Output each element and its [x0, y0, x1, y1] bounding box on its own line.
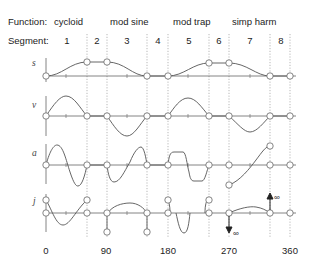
x-tick-0: 0: [43, 246, 48, 256]
axis-ticks: [66, 74, 250, 215]
axes: [46, 58, 296, 232]
infinity-down-label: ∞: [233, 229, 239, 239]
cam-motion-diagram: [0, 0, 314, 269]
arrow-down-icon: [226, 227, 232, 233]
arrow-up-icon: [267, 193, 273, 199]
infinity-up-label: ∞: [274, 193, 280, 203]
x-tick-90: 90: [101, 246, 112, 256]
a-curve: [46, 145, 270, 186]
x-tick-270: 270: [221, 246, 237, 256]
x-tick-360: 360: [282, 246, 298, 256]
x-tick-180: 180: [160, 246, 176, 256]
